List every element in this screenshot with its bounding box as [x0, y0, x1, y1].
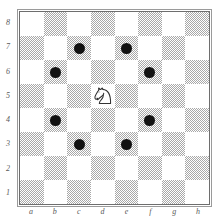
square-f6[interactable]	[138, 60, 162, 84]
square-h4[interactable]	[185, 108, 209, 132]
move-target-dot-f4[interactable]	[144, 115, 155, 126]
square-b6[interactable]	[44, 60, 68, 84]
square-g6[interactable]	[162, 60, 186, 84]
rank-label-6: 6	[0, 60, 16, 84]
square-c8[interactable]	[67, 12, 91, 36]
square-b5[interactable]	[44, 84, 68, 108]
square-b1[interactable]	[44, 180, 68, 204]
square-e7[interactable]	[115, 36, 139, 60]
rank-label-column: 87654321	[0, 11, 16, 205]
rank-label-4: 4	[0, 108, 16, 132]
square-g5[interactable]	[162, 84, 186, 108]
square-c2[interactable]	[67, 156, 91, 180]
square-g8[interactable]	[162, 12, 186, 36]
move-target-dot-f6[interactable]	[144, 67, 155, 78]
square-d1[interactable]	[91, 180, 115, 204]
square-b2[interactable]	[44, 156, 68, 180]
move-target-dot-b4[interactable]	[50, 115, 61, 126]
file-label-row: abcdefgh	[19, 206, 210, 222]
square-b7[interactable]	[44, 36, 68, 60]
square-c1[interactable]	[67, 180, 91, 204]
square-c3[interactable]	[67, 132, 91, 156]
square-a4[interactable]	[20, 108, 44, 132]
move-target-dot-e3[interactable]	[121, 139, 132, 150]
chess-diagram: 87654321 abcdefgh	[0, 0, 224, 224]
square-f5[interactable]	[138, 84, 162, 108]
square-a8[interactable]	[20, 12, 44, 36]
square-f3[interactable]	[138, 132, 162, 156]
square-e8[interactable]	[115, 12, 139, 36]
square-e5[interactable]	[115, 84, 139, 108]
rank-label-5: 5	[0, 84, 16, 108]
file-label-g: g	[162, 206, 186, 222]
move-target-dot-b6[interactable]	[50, 67, 61, 78]
square-c7[interactable]	[67, 36, 91, 60]
square-h5[interactable]	[185, 84, 209, 108]
square-b8[interactable]	[44, 12, 68, 36]
rank-label-2: 2	[0, 157, 16, 181]
file-label-a: a	[19, 206, 43, 222]
square-d7[interactable]	[91, 36, 115, 60]
file-label-h: h	[186, 206, 210, 222]
square-f4[interactable]	[138, 108, 162, 132]
square-b3[interactable]	[44, 132, 68, 156]
square-d8[interactable]	[91, 12, 115, 36]
file-label-f: f	[138, 206, 162, 222]
square-h1[interactable]	[185, 180, 209, 204]
file-label-d: d	[91, 206, 115, 222]
file-label-e: e	[115, 206, 139, 222]
square-h2[interactable]	[185, 156, 209, 180]
file-label-c: c	[67, 206, 91, 222]
square-g2[interactable]	[162, 156, 186, 180]
square-f1[interactable]	[138, 180, 162, 204]
square-g1[interactable]	[162, 180, 186, 204]
move-target-dot-c7[interactable]	[74, 43, 85, 54]
square-a5[interactable]	[20, 84, 44, 108]
square-a3[interactable]	[20, 132, 44, 156]
square-h8[interactable]	[185, 12, 209, 36]
square-f7[interactable]	[138, 36, 162, 60]
square-h7[interactable]	[185, 36, 209, 60]
rank-label-7: 7	[0, 35, 16, 59]
square-e1[interactable]	[115, 180, 139, 204]
square-a6[interactable]	[20, 60, 44, 84]
rank-label-1: 1	[0, 181, 16, 205]
square-d4[interactable]	[91, 108, 115, 132]
knight-icon[interactable]	[92, 84, 114, 107]
square-e2[interactable]	[115, 156, 139, 180]
square-e6[interactable]	[115, 60, 139, 84]
file-label-b: b	[43, 206, 67, 222]
square-e3[interactable]	[115, 132, 139, 156]
square-c4[interactable]	[67, 108, 91, 132]
chessboard	[20, 12, 209, 204]
square-a1[interactable]	[20, 180, 44, 204]
square-d6[interactable]	[91, 60, 115, 84]
square-c6[interactable]	[67, 60, 91, 84]
move-target-dot-c3[interactable]	[74, 139, 85, 150]
square-g3[interactable]	[162, 132, 186, 156]
square-b4[interactable]	[44, 108, 68, 132]
move-target-dot-e7[interactable]	[121, 43, 132, 54]
square-d5[interactable]	[91, 84, 115, 108]
square-g7[interactable]	[162, 36, 186, 60]
square-d2[interactable]	[91, 156, 115, 180]
square-g4[interactable]	[162, 108, 186, 132]
square-h6[interactable]	[185, 60, 209, 84]
rank-label-8: 8	[0, 11, 16, 35]
square-a7[interactable]	[20, 36, 44, 60]
square-d3[interactable]	[91, 132, 115, 156]
square-h3[interactable]	[185, 132, 209, 156]
rank-label-3: 3	[0, 132, 16, 156]
square-f8[interactable]	[138, 12, 162, 36]
square-c5[interactable]	[67, 84, 91, 108]
square-f2[interactable]	[138, 156, 162, 180]
square-a2[interactable]	[20, 156, 44, 180]
square-e4[interactable]	[115, 108, 139, 132]
